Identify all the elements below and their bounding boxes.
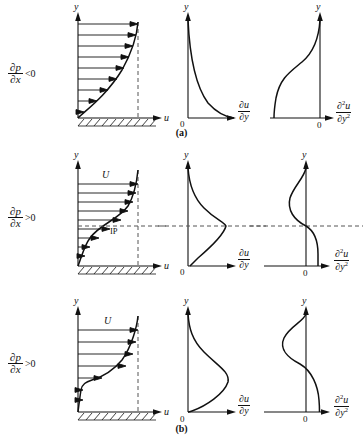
derivative-denominator: ∂y <box>238 112 250 123</box>
gradient-denominator: ∂x <box>8 218 23 229</box>
gradient-denominator: ∂x <box>8 364 23 375</box>
freestream-velocity-label: U <box>102 169 110 180</box>
freestream-velocity-label: U <box>104 315 112 326</box>
y-axis-arrowhead <box>303 306 309 315</box>
pressure-gradient-label-c: ∂p ∂x >0 <box>8 352 36 375</box>
gradient-denominator: ∂x <box>8 74 23 85</box>
first-derivative-axis-label: ∂u ∂y <box>238 100 250 122</box>
y-axis-arrowhead <box>75 12 81 21</box>
derivative-denominator: ∂y <box>238 406 250 417</box>
derivative-denominator: ∂y <box>238 260 250 271</box>
origin-label: 0 <box>303 414 308 424</box>
y-axis-arrowhead <box>185 160 191 169</box>
panel-c-first-derivative: y 0 ∂u ∂y <box>168 296 266 444</box>
velocity-arrow-group <box>77 182 138 259</box>
u-axis-arrowhead <box>153 115 162 121</box>
subfigure-caption-a: (a) <box>0 127 363 138</box>
pressure-gradient-label-b: ∂p ∂x >0 <box>8 206 36 229</box>
derivative-numerator: ∂u <box>238 100 250 112</box>
origin-label: 0 <box>180 267 185 277</box>
pressure-gradient-label-a: ∂p ∂x <0 <box>8 62 36 85</box>
first-derivative-curve <box>188 168 226 266</box>
y-axis-arrowhead <box>185 12 191 21</box>
second-derivative-curve <box>283 314 320 412</box>
gradient-relation: <0 <box>25 69 36 79</box>
derivative-numerator: ∂u <box>238 248 250 260</box>
first-derivative-axis-label: ∂u ∂y <box>238 248 250 270</box>
u-axis-arrowhead <box>153 409 162 415</box>
second-derivative-axis-label: ∂2u ∂y2 <box>336 100 351 125</box>
panel-a-second-derivative: y 0 ∂2u ∂y2 <box>262 0 363 148</box>
x-axis-arrowhead <box>321 409 330 415</box>
y-axis-arrowhead <box>75 160 81 169</box>
x-axis-arrowhead <box>227 263 236 269</box>
first-derivative-axis-label: ∂u ∂y <box>238 394 250 416</box>
wall-hatching <box>78 267 156 274</box>
figure-row-a: ∂p ∂x <0 y u <box>0 0 363 148</box>
u-axis-arrowhead <box>153 263 162 269</box>
x-axis-arrowhead <box>325 115 334 121</box>
figure-row-b: ∂p ∂x >0 y u <box>0 148 363 296</box>
velocity-arrow-group <box>76 22 138 115</box>
panel-b-velocity-profile: y u U <box>60 148 172 296</box>
y-axis-label: y <box>301 295 307 306</box>
second-derivative-axis-label: ∂2u ∂y2 <box>334 248 349 273</box>
y-axis-label: y <box>73 1 79 12</box>
x-axis-arrowhead <box>227 409 236 415</box>
origin-label: 0 <box>303 268 308 278</box>
y-axis-arrowhead <box>75 306 81 315</box>
y-axis-label: y <box>183 295 189 306</box>
derivative-denominator: ∂y2 <box>334 261 349 273</box>
second-derivative-axis-label: ∂2u ∂y2 <box>334 394 349 419</box>
x-axis-arrowhead <box>321 263 330 269</box>
y-axis-label: y <box>315 1 321 12</box>
y-axis-arrowhead <box>317 12 323 21</box>
pressure-gradient-fraction-a: ∂p ∂x <box>8 62 23 85</box>
panel-a-velocity-profile: y u <box>60 0 172 148</box>
derivative-denominator: ∂y2 <box>336 113 351 125</box>
derivative-denominator: ∂y2 <box>334 407 349 419</box>
y-axis-label: y <box>73 149 79 160</box>
gradient-relation: >0 <box>25 213 36 223</box>
y-axis-arrowhead <box>303 160 309 169</box>
boundary-layer-figure: ∂p ∂x <0 y u <box>0 0 363 444</box>
derivative-numerator: ∂u <box>238 394 250 406</box>
origin-label: 0 <box>180 414 185 424</box>
second-derivative-curve <box>274 20 320 118</box>
wall-hatching <box>78 119 156 126</box>
first-derivative-curve <box>188 20 234 118</box>
pressure-gradient-fraction-c: ∂p ∂x <box>8 352 23 375</box>
velocity-arrow-group <box>75 328 138 403</box>
panel-a-first-derivative: y 0 ∂u ∂y <box>168 0 266 148</box>
y-axis-label: y <box>301 149 307 160</box>
panel-c-second-derivative: y 0 ∂2u ∂y2 <box>262 296 363 444</box>
second-derivative-curve <box>289 168 318 266</box>
gradient-relation: >0 <box>25 359 36 369</box>
y-axis-label: y <box>183 1 189 12</box>
wall-hatching <box>78 413 156 420</box>
panel-b-second-derivative: y 0 ∂2u ∂y2 <box>262 148 363 296</box>
inflection-point-label: IP <box>110 226 118 236</box>
first-derivative-curve <box>188 314 228 412</box>
y-axis-arrowhead <box>185 306 191 315</box>
figure-row-c: ∂p ∂x >0 y u <box>0 296 363 444</box>
y-axis-label: y <box>183 149 189 160</box>
panel-b-first-derivative: y 0 ∂u ∂y <box>168 148 266 296</box>
y-axis-label: y <box>73 295 79 306</box>
pressure-gradient-fraction-b: ∂p ∂x <box>8 206 23 229</box>
panel-c-velocity-profile: y u U <box>60 296 172 444</box>
